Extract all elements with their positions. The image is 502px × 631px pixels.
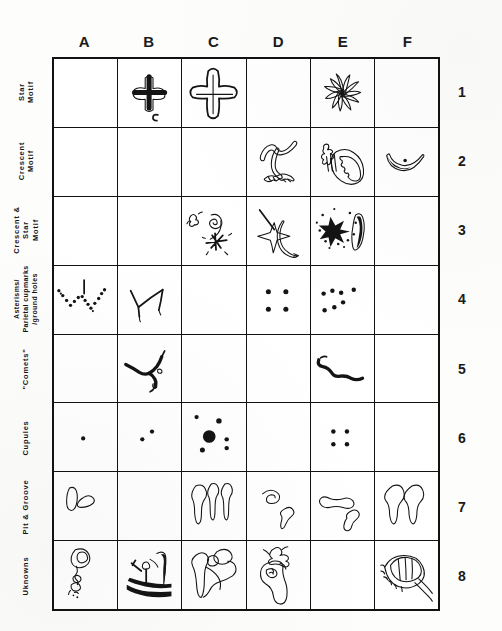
row-label-comets: "Comets" — [0, 334, 52, 403]
crested-crescent-figure-icon — [311, 128, 374, 196]
row-number-7: 7 — [448, 473, 488, 542]
cell-c3 — [182, 197, 246, 265]
single-cupule-icon — [54, 403, 117, 471]
table-row — [54, 541, 438, 609]
cell-e3 — [311, 197, 375, 265]
pit-and-groove-pair-icon — [54, 472, 117, 540]
row-number-8: 8 — [448, 542, 488, 611]
two-cupules-icon — [118, 403, 181, 471]
table-row — [54, 59, 438, 128]
cell-f4 — [375, 266, 438, 334]
four-point-star-with-crescent-icon — [247, 197, 310, 265]
cell-f3 — [375, 197, 438, 265]
cell-b7 — [118, 472, 182, 540]
row-label-crescent-motif: CrescentMotif — [0, 126, 52, 195]
table-row — [54, 128, 438, 197]
row-label-text: Asterisms/Parietal cupmarks/ground holes — [13, 266, 39, 333]
seven-cupmark-cluster-icon — [311, 266, 374, 334]
column-header-c: C — [181, 28, 246, 54]
row-label-uknowns: Uknowns — [0, 542, 52, 611]
cell-d8 — [247, 541, 311, 609]
pecked-star-and-crescent-icon — [311, 197, 374, 265]
two-teardrop-grooves-icon — [375, 472, 438, 540]
row-label-column: StarMotif CrescentMotif Crescent &StarMo… — [0, 57, 52, 611]
large-cupule-with-satellites-icon — [182, 403, 245, 471]
ringed-head-figure-icon — [54, 541, 117, 609]
spiral-and-starburst-icon — [182, 197, 245, 265]
cell-d2 — [247, 128, 311, 196]
table-row — [54, 403, 438, 472]
four-cupules-icon — [311, 403, 374, 471]
table-row — [54, 197, 438, 266]
cell-f1 — [375, 59, 438, 127]
cell-a2 — [54, 128, 118, 196]
row-number-5: 5 — [448, 334, 488, 403]
row-label-text: Uknowns — [21, 557, 30, 596]
antlered-enclosure-figure-icon — [247, 541, 310, 609]
row-label-text: Crescent &StarMotif — [12, 206, 40, 254]
table-row — [54, 472, 438, 541]
cell-e5 — [311, 335, 375, 403]
cell-b6 — [118, 403, 182, 471]
cell-a1 — [54, 59, 118, 127]
row-label-star-motif: StarMotif — [0, 57, 52, 126]
row-label-text: StarMotif — [17, 81, 36, 103]
cell-b5 — [118, 335, 182, 403]
row-number-column: 1 2 3 4 5 6 7 8 — [448, 57, 488, 611]
cell-e6 — [311, 403, 375, 471]
hooked-crescent-with-base-icon — [247, 128, 310, 196]
cell-d4 — [247, 266, 311, 334]
row-label-text: CrescentMotif — [17, 142, 36, 181]
three-tadpole-grooves-icon — [182, 472, 245, 540]
smile-crescent-with-dot-icon — [375, 128, 438, 196]
column-header-e: E — [311, 28, 376, 54]
cell-c8 — [182, 541, 246, 609]
cell-e7 — [311, 472, 375, 540]
row-label-crescent-and-star-motif: Crescent &StarMotif — [0, 196, 52, 265]
table-row — [54, 266, 438, 335]
row-number-2: 2 — [448, 126, 488, 195]
cell-b4 — [118, 266, 182, 334]
column-header-a: A — [52, 28, 117, 54]
cell-b8 — [118, 541, 182, 609]
row-label-asterisms-parietal-cupmarks: Asterisms/Parietal cupmarks/ground holes — [0, 265, 52, 334]
forked-comet-tail-icon — [118, 335, 181, 403]
four-cupmark-square-icon — [247, 266, 310, 334]
column-header-b: B — [117, 28, 182, 54]
cell-d5 — [247, 335, 311, 403]
two-hooked-grooves-icon — [247, 472, 310, 540]
cell-f2 — [375, 128, 438, 196]
cell-e1 — [311, 59, 375, 127]
cell-b1 — [118, 59, 182, 127]
cell-a3 — [54, 197, 118, 265]
row-label-pit-and-groove: Pit & Groove — [0, 473, 52, 542]
cell-b3 — [118, 197, 182, 265]
cell-d7 — [247, 472, 311, 540]
dotted-w-asterism-with-bar-icon — [54, 266, 117, 334]
cell-b2 — [118, 128, 182, 196]
cell-f8 — [375, 541, 438, 609]
row-number-4: 4 — [448, 265, 488, 334]
row-number-1: 1 — [448, 57, 488, 126]
row-label-text: Cupules — [21, 420, 30, 455]
table-row — [54, 335, 438, 404]
row-label-text: "Comets" — [21, 348, 30, 389]
cell-f5 — [375, 335, 438, 403]
cell-e8 — [311, 541, 375, 609]
cell-f6 — [375, 403, 438, 471]
column-header-d: D — [246, 28, 311, 54]
row-number-6: 6 — [448, 403, 488, 472]
cell-d1 — [247, 59, 311, 127]
cell-a5 — [54, 335, 118, 403]
row-label-text: Pit & Groove — [21, 480, 30, 535]
cell-a8 — [54, 541, 118, 609]
cell-c5 — [182, 335, 246, 403]
coiled-ring-with-tail-icon — [375, 541, 438, 609]
radiating-starburst-icon — [311, 59, 374, 127]
wavy-comet-streak-icon — [311, 335, 374, 403]
bent-groove-and-dumbbell-icon — [311, 472, 374, 540]
figure-page: A B C D E F StarMotif CrescentMotif Cres… — [0, 0, 502, 631]
cell-d6 — [247, 403, 311, 471]
cell-e4 — [311, 266, 375, 334]
cell-a4 — [54, 266, 118, 334]
